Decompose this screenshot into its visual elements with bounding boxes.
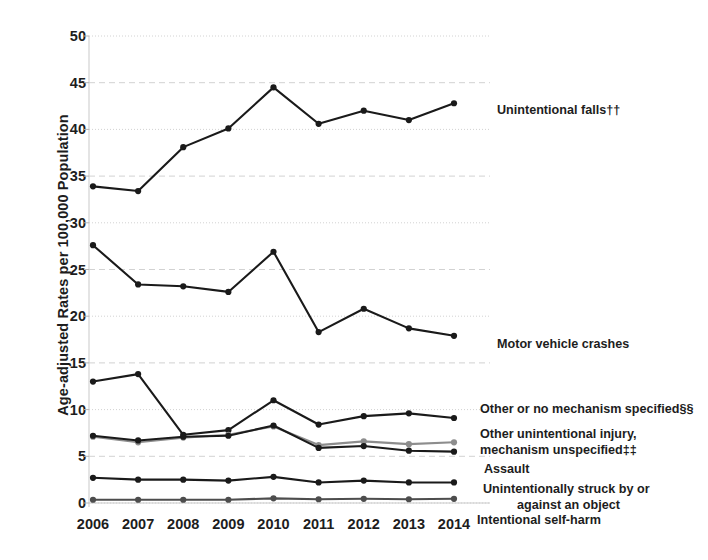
data-point [90,433,96,439]
series-6 [90,474,457,486]
series-label: Other unintentional injury, [480,427,637,441]
data-point [270,84,276,90]
data-point [361,496,367,502]
data-point [270,397,276,403]
data-point [451,439,457,445]
series-label: Unintentionally struck by or [483,482,650,496]
data-point [361,413,367,419]
series-label: Assault [484,462,530,476]
data-point [406,496,412,502]
data-point [451,496,457,502]
data-point [90,475,96,481]
data-point [180,477,186,483]
data-point [90,378,96,384]
series-label: Other or no mechanism specified§§ [480,402,693,416]
data-point [90,183,96,189]
data-point [225,289,231,295]
data-point [316,121,322,127]
data-point [361,306,367,312]
series-line [93,87,454,191]
data-point [225,477,231,483]
data-point [406,441,412,447]
series-label: against an object [517,498,620,512]
data-point [180,434,186,440]
data-point [451,479,457,485]
data-point [406,325,412,331]
series-5 [90,422,457,454]
data-point [451,333,457,339]
data-point [180,144,186,150]
line-chart: Age-adjusted Rates per 100,000 Populatio… [0,0,708,560]
series-label: Motor vehicle crashes [497,337,629,351]
data-point [406,410,412,416]
series-label: mechanism unspecified‡‡ [480,443,637,457]
series-label: Intentional self-harm [477,513,601,527]
data-point [361,443,367,449]
data-point [361,477,367,483]
series-2 [90,242,457,339]
data-point [90,242,96,248]
data-point [180,497,186,503]
data-point [135,437,141,443]
data-point [451,449,457,455]
data-point [270,422,276,428]
series-label: Unintentional falls†† [497,103,620,117]
data-point [135,188,141,194]
data-point [451,100,457,106]
series-7 [90,495,457,503]
data-point [316,421,322,427]
data-point [225,497,231,503]
data-point [135,371,141,377]
data-point [225,433,231,439]
data-point [135,497,141,503]
data-point [316,479,322,485]
data-point [270,495,276,501]
data-point [135,281,141,287]
data-point [135,477,141,483]
data-point [90,497,96,503]
data-point [316,445,322,451]
plot-area [0,0,708,560]
data-point [361,108,367,114]
data-point [406,117,412,123]
data-point [180,283,186,289]
series-1 [90,84,457,194]
data-point [406,479,412,485]
data-point [406,448,412,454]
data-point [451,415,457,421]
data-point [270,249,276,255]
data-point [225,125,231,131]
data-point [270,474,276,480]
data-point [316,496,322,502]
series-line [93,245,454,336]
data-point [316,329,322,335]
